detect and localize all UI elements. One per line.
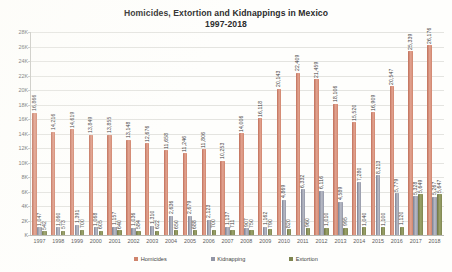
x-axis-tick-label: 2000 (86, 238, 105, 244)
x-axis-tick-label: 2016 (387, 238, 406, 244)
bar-group: 26,1765,2675,647 (425, 32, 444, 235)
legend-item[interactable]: Kidnapping (211, 256, 246, 262)
y-axis-tick-label: 28K (0, 29, 28, 35)
y-axis-tick-label: 16K (0, 116, 28, 122)
bar-extortion[interactable]: 584 (136, 231, 140, 235)
bar-group: 12,6761,310622 (143, 32, 162, 235)
x-axis-labels: 1997199819992000200120022003200420052006… (30, 238, 444, 244)
bar-extortion[interactable]: 5,647 (437, 194, 441, 235)
bar-extortion[interactable]: 1,120 (400, 227, 404, 235)
bar-extortion[interactable]: 750 (249, 230, 253, 235)
chart-container: Homicides, Extortion and Kidnappings in … (0, 0, 452, 272)
x-axis-tick-label: 2008 (237, 238, 256, 244)
bar-homicides[interactable]: 11,246 (183, 153, 187, 235)
bar-extortion[interactable]: 622 (155, 231, 159, 236)
bar-extortion[interactable]: 5,649 (418, 194, 422, 235)
x-axis-tick-label: 2004 (162, 238, 181, 244)
plot-area: 16,8661,04754214,2161,06057314,6191,3917… (30, 32, 444, 235)
bar-extortion[interactable]: 960 (306, 228, 310, 235)
bar-kidnapping[interactable]: 7,280 (357, 182, 361, 235)
legend-item[interactable]: Extortion (289, 256, 318, 262)
bar-group: 13,1481,036584 (124, 32, 143, 235)
x-axis-tick-label: 2002 (124, 238, 143, 244)
bar-group: 11,6582,636650 (162, 32, 181, 235)
chart-subtitle: 1997-2018 (0, 19, 452, 30)
bar-extortion[interactable]: 1,010 (324, 228, 328, 235)
x-axis-tick-label: 2001 (105, 238, 124, 244)
bar-homicides[interactable]: 11,658 (164, 150, 168, 235)
bar-extortion[interactable]: 640 (117, 230, 121, 235)
x-axis-tick-label: 1999 (68, 238, 87, 244)
x-axis-tick-label: 2018 (425, 238, 444, 244)
bar-extortion[interactable]: 688 (193, 230, 197, 235)
legend-swatch-icon (289, 257, 293, 261)
bar-extortion[interactable]: 820 (287, 229, 291, 235)
legend-item[interactable]: Homicides (134, 256, 167, 262)
bar-homicides[interactable]: 21,459 (314, 79, 318, 235)
x-axis-tick-label: 1998 (49, 238, 68, 244)
x-axis-tick-label: 2009 (256, 238, 275, 244)
bar-kidnapping[interactable]: 6,332 (301, 189, 305, 235)
bar-extortion[interactable]: 995 (343, 228, 347, 235)
bar-group: 16,8661,047542 (30, 32, 49, 235)
bar-group: 10,2531,137711 (218, 32, 237, 235)
bar-kidnapping[interactable]: 907 (244, 228, 248, 235)
x-axis-tick-label: 2017 (406, 238, 425, 244)
bar-groups: 16,8661,04754214,2161,06057314,6191,3917… (30, 32, 444, 235)
bar-group: 16,1181,162790 (256, 32, 275, 235)
bar-extortion[interactable]: 700 (80, 230, 84, 235)
bar-extortion[interactable]: 790 (268, 229, 272, 235)
bar-extortion[interactable]: 1,040 (362, 227, 366, 235)
x-axis-tick-label: 2012 (312, 238, 331, 244)
y-axis-tick-label: 24K (0, 58, 28, 64)
bar-homicides[interactable]: 26,176 (427, 45, 431, 235)
y-axis-tick-label: 10K (0, 159, 28, 165)
bar-group: 20,1434,869820 (275, 32, 294, 235)
bar-extortion[interactable]: 542 (42, 231, 46, 235)
bar-group: 16,9098,2131,100 (369, 32, 388, 235)
x-axis-tick-label: 2015 (369, 238, 388, 244)
bar-homicides[interactable]: 25,339 (408, 51, 412, 235)
y-axis-tick-label: 2K (0, 217, 28, 223)
y-axis-tick-label: 14K (0, 130, 28, 136)
bar-kidnapping[interactable]: 1,137 (225, 227, 229, 235)
bar-homicides[interactable]: 20,547 (390, 86, 394, 235)
legend-swatch-icon (134, 257, 138, 261)
bar-extortion[interactable]: 1,100 (381, 227, 385, 235)
bar-extortion[interactable]: 605 (99, 231, 103, 235)
x-axis-tick-label: 1997 (30, 238, 49, 244)
bar-kidnapping[interactable]: 5,328 (413, 196, 417, 235)
bar-homicides[interactable]: 22,409 (296, 73, 300, 235)
bar-group: 14,6191,391700 (68, 32, 87, 235)
y-axis-tick-label: 6K (0, 188, 28, 194)
bar-extortion[interactable]: 700 (212, 230, 216, 235)
bar-homicides[interactable]: 18,106 (333, 104, 337, 235)
bar-extortion[interactable]: 711 (230, 230, 234, 235)
bar-homicides[interactable]: 11,806 (202, 149, 206, 235)
chart-legend: HomicidesKidnappingExtortion (0, 256, 452, 262)
y-axis-tick-label: 12K (0, 145, 28, 151)
bar-group: 25,3395,3285,649 (406, 32, 425, 235)
x-axis-tick-label: 2013 (331, 238, 350, 244)
bar-group: 22,4096,332960 (293, 32, 312, 235)
bar-kidnapping[interactable]: 4,869 (282, 200, 286, 235)
bar-kidnapping[interactable]: 5,267 (432, 197, 436, 235)
chart-title: Homicides, Extortion and Kidnappings in … (0, 8, 452, 19)
legend-label: Homicides (141, 256, 167, 262)
x-axis-line (30, 235, 444, 236)
x-axis-tick-label: 2005 (181, 238, 200, 244)
y-axis-tick-label: 4K (0, 203, 28, 209)
x-axis-tick-label: 2007 (218, 238, 237, 244)
legend-label: Extortion (296, 256, 318, 262)
bar-group: 11,2462,679688 (181, 32, 200, 235)
y-axis-tick-label: K (0, 232, 28, 238)
y-axis-tick-label: 26K (0, 43, 28, 49)
x-axis-tick-label: 2011 (293, 238, 312, 244)
bar-kidnapping[interactable]: 8,213 (376, 175, 380, 235)
bar-extortion[interactable]: 573 (61, 231, 65, 235)
bar-group: 13,8551,157640 (105, 32, 124, 235)
bar-extortion[interactable]: 650 (174, 230, 178, 235)
bar-homicides[interactable]: 20,143 (277, 89, 281, 235)
bar-group: 14,006907750 (237, 32, 256, 235)
bar-group: 21,4596,1161,010 (312, 32, 331, 235)
